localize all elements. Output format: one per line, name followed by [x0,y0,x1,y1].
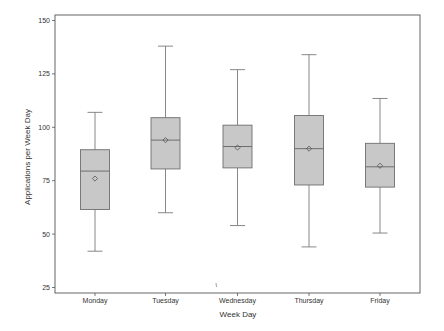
y-tick-label: 50 [42,231,50,238]
x-tick-label-monday: Monday [83,297,108,305]
box-monday [81,112,110,251]
box-plot-chart: 255075100125150 MondayTuesdayWednesdayTh… [0,0,444,331]
x-tick-label-tuesday: Tuesday [152,297,179,305]
box-friday [366,98,395,233]
y-tick-label: 25 [42,284,50,291]
iqr-box [81,150,110,210]
stray-mark [216,283,217,287]
y-axis-title: Applications per Week Day [23,109,32,205]
y-tick-label: 125 [38,70,50,77]
x-axis: MondayTuesdayWednesdayThursdayFriday [83,293,391,305]
box-thursday [295,55,324,247]
x-axis-title: Week Day [220,310,257,319]
y-tick-label: 100 [38,124,50,131]
y-axis: 255075100125150 [38,17,55,291]
x-tick-label-thursday: Thursday [294,297,324,305]
y-tick-label: 75 [42,177,50,184]
box-tuesday [151,46,180,213]
box-series [81,46,395,251]
x-tick-label-friday: Friday [370,297,390,305]
iqr-box [151,118,180,169]
box-wednesday [223,70,252,226]
y-tick-label: 150 [38,17,50,24]
x-tick-label-wednesday: Wednesday [219,297,256,305]
iqr-box [295,116,324,185]
iqr-box [366,143,395,187]
